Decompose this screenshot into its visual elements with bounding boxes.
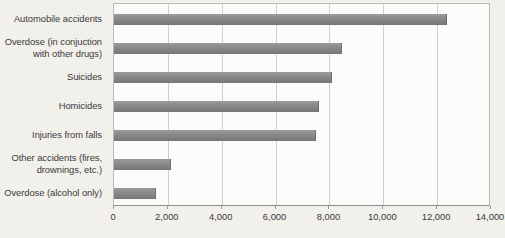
x-axis-tick-label: 2,000 xyxy=(155,211,178,223)
gridline xyxy=(383,4,384,205)
category-label-line: Injuries from falls xyxy=(0,129,102,141)
category-label: Automobile accidents xyxy=(0,13,102,25)
gridline xyxy=(329,4,330,205)
category-label-line: Overdose (in conjuction xyxy=(0,36,102,48)
x-axis-tick-mark xyxy=(382,206,383,209)
x-axis-tick-mark xyxy=(113,206,114,209)
category-label: Overdose (in conjuctionwith other drugs) xyxy=(0,36,102,59)
x-axis-tick-label: 0 xyxy=(110,211,115,223)
x-axis-tick-mark xyxy=(436,206,437,209)
bar xyxy=(114,14,447,25)
category-label: Injuries from falls xyxy=(0,129,102,141)
bar xyxy=(114,159,171,170)
plot-area xyxy=(113,3,490,206)
category-label: Other accidents (fires,drownings, etc.) xyxy=(0,152,102,175)
category-label-line: Suicides xyxy=(0,71,102,83)
category-label-line: Automobile accidents xyxy=(0,13,102,25)
x-axis-line xyxy=(113,205,490,206)
bar xyxy=(114,130,316,141)
bar-chart: Automobile accidentsOverdose (in conjuct… xyxy=(0,0,505,238)
x-axis-tick-mark xyxy=(328,206,329,209)
bar xyxy=(114,188,156,199)
category-label-line: with other drugs) xyxy=(0,48,102,60)
category-label: Homicides xyxy=(0,100,102,112)
x-axis-tick-mark xyxy=(275,206,276,209)
category-label-line: drownings, etc.) xyxy=(0,164,102,176)
y-axis-category-labels: Automobile accidentsOverdose (in conjuct… xyxy=(0,3,108,206)
category-label: Overdose (alcohol only) xyxy=(0,187,102,199)
x-axis-tick-label: 6,000 xyxy=(263,211,286,223)
gridline xyxy=(437,4,438,205)
x-axis-tick-label: 10,000 xyxy=(368,211,397,223)
bar xyxy=(114,101,319,112)
x-axis-tick-label: 14,000 xyxy=(476,211,505,223)
x-axis-tick-mark xyxy=(167,206,168,209)
bar xyxy=(114,43,342,54)
x-axis-tick-label: 8,000 xyxy=(317,211,340,223)
category-label: Suicides xyxy=(0,71,102,83)
x-axis-tick-label: 12,000 xyxy=(422,211,451,223)
category-label-line: Overdose (alcohol only) xyxy=(0,187,102,199)
category-label-line: Homicides xyxy=(0,100,102,112)
category-label-line: Other accidents (fires, xyxy=(0,152,102,164)
bar xyxy=(114,72,332,83)
x-axis-tick-label: 4,000 xyxy=(209,211,232,223)
x-axis-tick-mark xyxy=(490,206,491,209)
x-axis-tick-mark xyxy=(221,206,222,209)
